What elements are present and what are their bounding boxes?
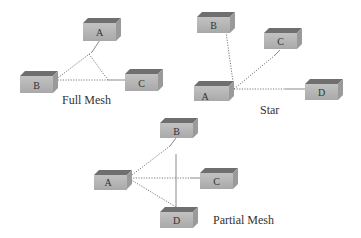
node-a: A [194, 81, 234, 102]
partial-mesh-diagram: B A C D Partial Mesh [94, 118, 274, 228]
node-b: B [197, 12, 235, 33]
node-label: A [201, 91, 209, 102]
star-diagram: B C A D Star [194, 12, 343, 117]
link-a-b-solid [92, 40, 100, 52]
node-a: A [83, 18, 121, 41]
node-c: C [125, 69, 163, 91]
node-label: C [138, 78, 145, 89]
link-a-c [234, 56, 274, 89]
link-b-solid [170, 138, 176, 146]
link-a-d [128, 178, 176, 207]
link-a-b [55, 52, 92, 80]
node-b: B [160, 118, 198, 138]
node-label: C [213, 176, 220, 187]
node-d: D [160, 207, 198, 228]
node-label: B [33, 80, 40, 91]
network-topology-diagram: A B C Full Mesh B [0, 0, 361, 238]
caption-star: Star [260, 103, 279, 117]
node-a: A [94, 170, 132, 190]
node-label: D [318, 87, 325, 98]
node-label: A [104, 177, 112, 188]
link-c-solid [274, 50, 280, 56]
link-a-c [89, 54, 108, 80]
caption-partial-mesh: Partial Mesh [213, 213, 274, 227]
node-b: B [20, 71, 58, 93]
node-label: B [173, 126, 180, 137]
link-a-b [226, 32, 234, 89]
node-c: C [200, 168, 238, 189]
full-mesh-diagram: A B C Full Mesh [20, 18, 163, 107]
node-d: D [305, 79, 343, 100]
node-label: D [173, 215, 180, 226]
caption-full-mesh: Full Mesh [62, 93, 111, 107]
node-label: B [210, 20, 217, 31]
node-label: A [96, 27, 104, 38]
node-label: C [277, 36, 284, 47]
link-a-b [128, 146, 170, 178]
node-c: C [264, 28, 302, 49]
